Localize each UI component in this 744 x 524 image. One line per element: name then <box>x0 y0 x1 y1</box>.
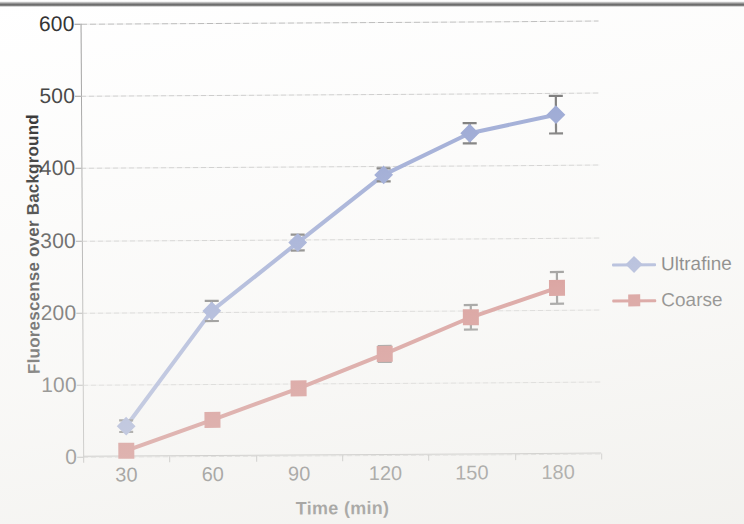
square-marker-icon <box>550 281 564 295</box>
x-tick-mark <box>170 456 171 462</box>
legend-key-ultrafine <box>612 255 656 273</box>
square-marker-icon <box>205 413 219 427</box>
x-tick-mark <box>83 457 84 463</box>
legend-item-coarse[interactable]: Coarse <box>612 282 744 319</box>
x-tick-label: 120 <box>369 462 403 485</box>
y-tick-label: 200 <box>41 300 77 324</box>
chart-canvas: 0100200300400500600 306090120150180 Time… <box>0 0 744 524</box>
x-tick-mark <box>515 454 516 460</box>
legend-label-coarse: Coarse <box>656 289 722 311</box>
diamond-marker-icon <box>462 125 478 141</box>
y-tick-label: 400 <box>40 156 76 180</box>
x-tick-label: 60 <box>202 463 224 486</box>
square-marker-icon <box>464 310 478 324</box>
y-tick-label: 500 <box>39 84 75 108</box>
x-axis-title: Time (min) <box>83 497 601 521</box>
legend-label-ultrafine: Ultrafine <box>656 253 732 275</box>
plot-area <box>81 21 602 457</box>
chart-figure: 0100200300400500600 306090120150180 Time… <box>0 0 744 524</box>
x-tick-mark <box>256 456 257 462</box>
diamond-marker-icon <box>626 256 643 273</box>
scan-edge-artifact <box>0 0 744 7</box>
series-ultrafine <box>116 96 566 434</box>
y-tick-label: 300 <box>40 228 76 252</box>
x-tick-label: 30 <box>115 463 137 486</box>
chart-legend: Ultrafine Coarse <box>612 246 744 319</box>
x-tick-label: 90 <box>288 462 310 485</box>
x-axis-tick-labels: 306090120150180 <box>83 461 601 496</box>
x-tick-mark <box>342 455 343 461</box>
x-tick-mark <box>429 455 430 461</box>
y-tick-label: 600 <box>39 12 75 36</box>
x-tick-label: 150 <box>455 461 489 484</box>
series-line <box>125 288 558 451</box>
square-marker-icon <box>119 444 133 458</box>
x-tick-mark <box>601 454 602 460</box>
diamond-marker-icon <box>548 107 564 123</box>
x-tick-label: 180 <box>541 461 575 484</box>
square-marker-icon <box>292 381 306 395</box>
legend-key-coarse <box>612 291 656 309</box>
series-line <box>124 115 558 427</box>
data-series-layer <box>81 21 602 457</box>
square-marker-icon <box>378 347 392 361</box>
y-tick-label: 0 <box>65 445 77 469</box>
series-coarse <box>118 272 565 458</box>
y-tick-label: 100 <box>41 373 77 397</box>
y-axis-title: Fluorescense over Background <box>23 34 46 454</box>
legend-item-ultrafine[interactable]: Ultrafine <box>612 246 744 283</box>
square-marker-icon <box>628 294 640 306</box>
